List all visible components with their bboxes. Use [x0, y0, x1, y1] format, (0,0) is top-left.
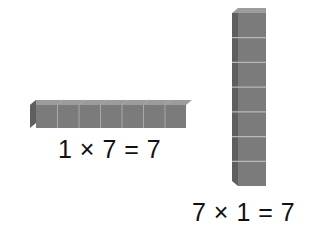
horizontal-rod — [30, 100, 192, 128]
horizontal-rod-side-face — [30, 100, 36, 128]
vertical-rod — [232, 8, 266, 186]
vertical-rod-front-face — [238, 13, 266, 186]
vertical-rod-top-face — [232, 8, 266, 13]
vertical-rod-side-face — [232, 13, 238, 186]
horizontal-rod-equation: 1 × 7 = 7 — [58, 137, 161, 162]
vertical-rod-equation: 7 × 1 = 7 — [192, 200, 295, 225]
horizontal-rod-front-face — [36, 105, 186, 128]
